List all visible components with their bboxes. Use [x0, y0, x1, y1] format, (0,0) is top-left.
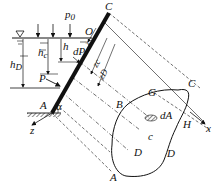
- ground-hatch: [27, 113, 61, 117]
- label-h: h: [63, 40, 69, 52]
- projection-lines: [52, 13, 210, 172]
- diagram-canvas: p0 O C hD hc h dP P A α z x: [0, 0, 218, 192]
- surface-pressure-arrows: [38, 24, 70, 37]
- label-x-axis: x: [205, 122, 211, 134]
- label-B: B: [116, 98, 123, 110]
- label-H: H: [182, 118, 192, 130]
- label-P: P: [38, 72, 46, 84]
- label-hD: hD: [10, 58, 23, 72]
- inclined-plate-diagram: p0 O C hD hc h dP P A α z x: [0, 0, 218, 192]
- label-dA: dA: [160, 109, 173, 121]
- label-p0: p0: [64, 8, 76, 22]
- label-A-bottom: A: [109, 171, 117, 183]
- label-G: G: [148, 86, 156, 98]
- label-c: c: [148, 130, 153, 142]
- label-z-axis: z: [29, 124, 35, 136]
- label-hc: hc: [38, 46, 48, 60]
- label-A-left: A: [39, 99, 47, 111]
- element-dA: [145, 115, 157, 121]
- label-C-right: C: [188, 77, 196, 89]
- label-D2: D: [166, 147, 175, 159]
- label-C-top: C: [105, 0, 113, 12]
- label-D1: D: [133, 146, 142, 158]
- label-alpha: α: [56, 100, 62, 112]
